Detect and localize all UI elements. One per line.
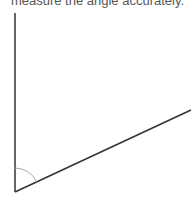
angle-diagram [0, 0, 195, 206]
angle-arc [15, 168, 37, 182]
slanted-ray [15, 110, 191, 192]
